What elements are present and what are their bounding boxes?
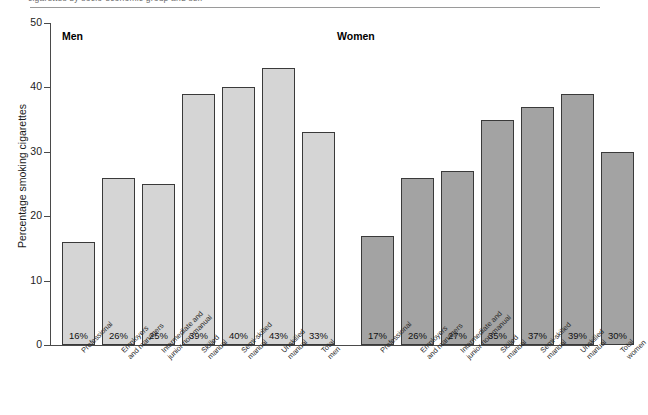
bar-women-5[interactable]: 39% [561, 94, 594, 345]
y-tick-mark [44, 345, 50, 346]
bar-men-5[interactable]: 43% [262, 68, 295, 345]
bar-men-4[interactable]: 40% [222, 87, 255, 345]
bar-women-0[interactable]: 17% [361, 236, 394, 345]
y-axis-label: Percentage smoking cigarettes [16, 26, 28, 326]
clipped-caption-text: cigarettes by socio-economic group and s… [28, 0, 202, 3]
bar-men-0[interactable]: 16% [62, 242, 95, 345]
category-labels-layer: ProfessionalEmployers and managersInterm… [50, 349, 598, 415]
bar-women-4[interactable]: 37% [521, 107, 554, 345]
bar-women-6[interactable]: 30% [601, 152, 634, 345]
top-divider-rule [30, 7, 600, 8]
y-tick-label: 0 [4, 338, 42, 350]
bar-men-6[interactable]: 33% [302, 132, 335, 345]
bar-women-2[interactable]: 27% [441, 171, 474, 345]
bars-layer: 16%26%25%39%40%43%33%17%26%27%35%37%39%3… [50, 23, 598, 345]
bar-men-3[interactable]: 39% [182, 94, 215, 345]
